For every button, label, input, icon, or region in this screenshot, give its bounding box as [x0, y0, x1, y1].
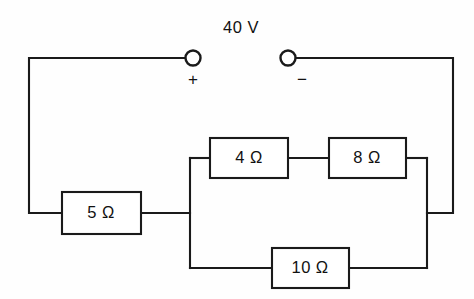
resistor-r4-label: 4 Ω [235, 148, 262, 166]
negative-terminal-icon[interactable] [281, 51, 296, 66]
resistor-r5-label: 5 Ω [87, 203, 114, 221]
positive-terminal-icon[interactable] [186, 51, 201, 66]
wire-negative-to-right-node [295, 58, 453, 213]
circuit-diagram: 40 V + − 5 Ω 4 Ω 8 Ω 10 Ω [0, 0, 474, 299]
source-voltage-label: 40 V [223, 18, 259, 36]
circuit-canvas: 40 V + − 5 Ω 4 Ω 8 Ω 10 Ω [0, 0, 474, 299]
wire-positive-to-r5 [29, 58, 186, 213]
positive-polarity-label: + [188, 70, 198, 89]
resistor-r10-label: 10 Ω [292, 258, 329, 276]
resistor-r8-label: 8 Ω [353, 148, 380, 166]
negative-polarity-label: − [297, 70, 307, 89]
